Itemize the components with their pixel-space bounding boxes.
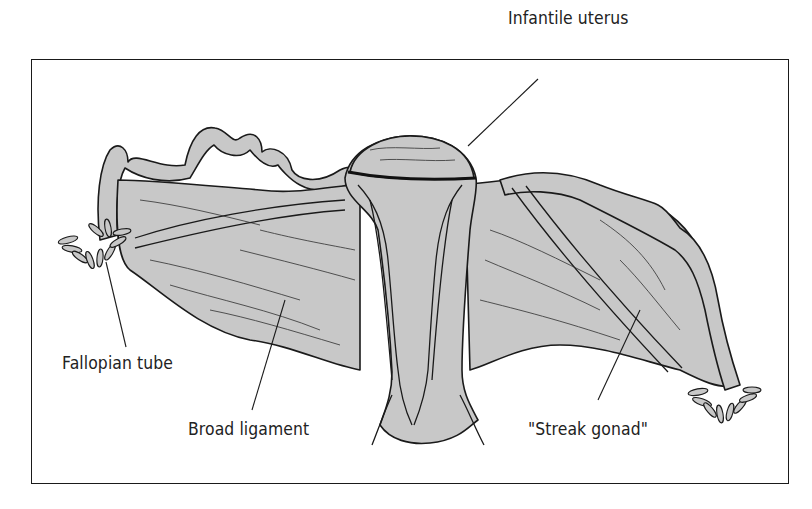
- leader-infantile-uterus: [468, 79, 538, 146]
- label-broad-ligament: Broad ligament: [188, 419, 309, 439]
- label-streak-gonad: "Streak gonad": [528, 419, 648, 439]
- anatomy-illustration: [0, 0, 812, 509]
- uterus-body: [345, 136, 478, 444]
- label-fallopian-tube: Fallopian tube: [62, 353, 173, 373]
- leader-fallopian-tube: [106, 262, 126, 347]
- uterine-fundus: [350, 136, 474, 179]
- label-infantile-uterus: Infantile uterus: [508, 8, 629, 28]
- right-fimbriae: [688, 387, 761, 423]
- left-broad-ligament: [117, 180, 360, 370]
